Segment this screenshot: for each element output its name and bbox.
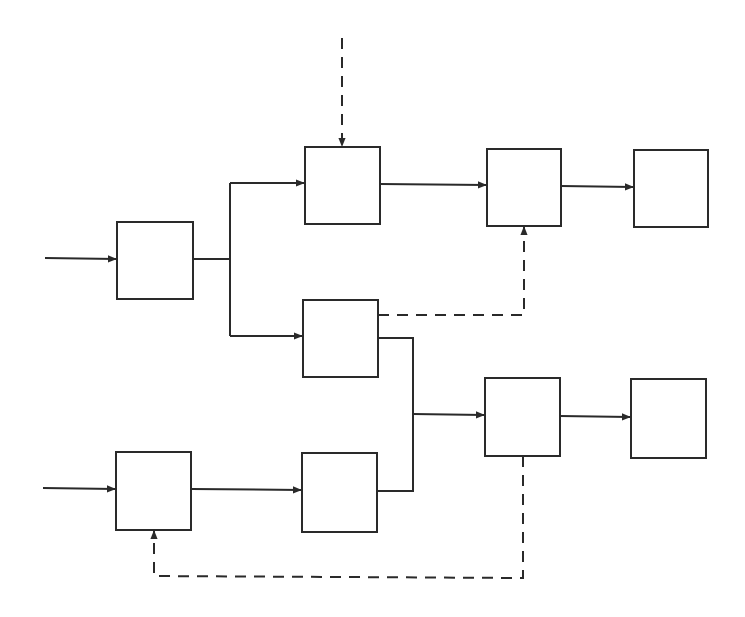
block-a <box>117 222 193 299</box>
arrow-f-to-g <box>191 489 301 490</box>
dashed-arrow-e-to-c <box>378 227 524 315</box>
arrow-b-to-c <box>380 184 486 185</box>
block-h <box>485 378 560 456</box>
arrow-c-to-d <box>561 186 633 187</box>
line-e-to-merge <box>377 338 413 491</box>
block-f <box>116 452 191 530</box>
block-b <box>305 147 380 224</box>
arrow-merge-to-h <box>413 414 484 415</box>
block-d <box>634 150 708 227</box>
block-i <box>631 379 706 458</box>
block-e <box>303 300 378 377</box>
arrow-input2-to-f <box>43 488 115 489</box>
arrow-h-to-i <box>560 416 630 417</box>
block-g <box>302 453 377 532</box>
block-c <box>487 149 561 226</box>
arrow-input1-to-a <box>45 258 116 259</box>
block-diagram <box>0 0 745 617</box>
